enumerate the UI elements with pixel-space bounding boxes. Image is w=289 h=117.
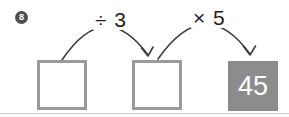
divide-arrow-icon — [62, 27, 148, 60]
multiply-operation-label: × 5 — [191, 7, 228, 28]
answer-box-2[interactable] — [132, 60, 182, 110]
divide-operation-label: ÷ 3 — [93, 9, 129, 30]
answer-box-1[interactable] — [37, 60, 87, 110]
given-value-box: 45 — [228, 61, 278, 111]
bottom-divider — [0, 113, 289, 114]
worksheet-diagram: 8 ÷ 3 × 5 45 — [0, 0, 289, 117]
multiply-arrow-icon — [158, 24, 250, 59]
